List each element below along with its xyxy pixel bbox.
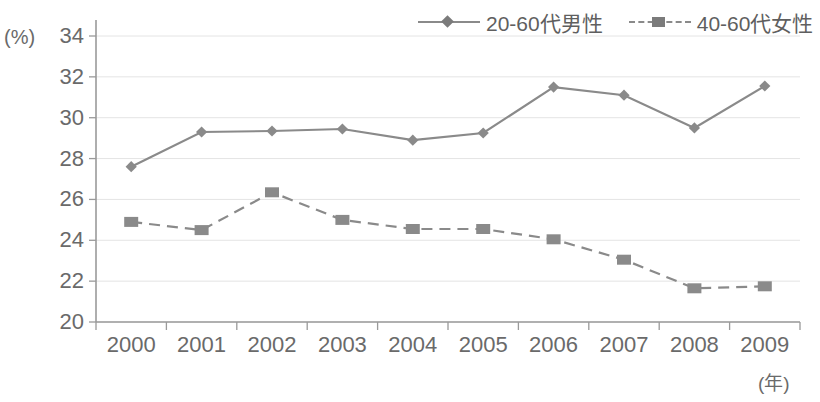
- x-axis-tick-label: 2003: [308, 332, 376, 358]
- data-point-marker: [547, 234, 561, 244]
- y-axis-tick-label: 32: [40, 64, 84, 90]
- x-axis-tick-label: 2007: [590, 332, 658, 358]
- x-axis-tick-label: 2006: [520, 332, 588, 358]
- x-axis-tick-label: 2002: [238, 332, 306, 358]
- data-point-marker: [618, 90, 629, 101]
- x-axis-tick-label: 2008: [660, 332, 728, 358]
- data-point-marker: [617, 255, 631, 265]
- y-axis-tick-label: 26: [40, 186, 84, 212]
- data-point-marker: [407, 135, 418, 146]
- data-point-marker: [266, 125, 277, 136]
- data-point-marker: [196, 126, 207, 137]
- data-point-marker: [335, 215, 349, 225]
- data-point-marker: [265, 187, 279, 197]
- data-point-marker: [687, 283, 701, 293]
- x-axis-tick-label: 2001: [168, 332, 236, 358]
- chart-plot-area: (%) (年) 3432302826242220 200020012002200…: [0, 0, 820, 402]
- chart-page: 20-60代男性 40-60代女性 (%) (年) 34323028262422…: [0, 0, 820, 402]
- data-point-marker: [337, 123, 348, 134]
- x-axis-tick-label: 2004: [379, 332, 447, 358]
- axis-lines: [96, 20, 800, 322]
- x-axis-tick-label: 2005: [449, 332, 517, 358]
- data-point-marker: [758, 281, 772, 291]
- data-point-marker: [548, 82, 559, 93]
- y-axis-tick-label: 30: [40, 105, 84, 131]
- data-point-marker: [478, 127, 489, 138]
- series-layer: [124, 80, 772, 293]
- data-point-marker: [124, 217, 138, 227]
- data-point-marker: [126, 161, 137, 172]
- y-axis-tick-label: 24: [40, 227, 84, 253]
- x-axis-tick-label: 2000: [97, 332, 165, 358]
- data-point-marker: [689, 122, 700, 133]
- data-point-marker: [195, 225, 209, 235]
- data-point-marker: [406, 224, 420, 234]
- y-axis-tick-label: 22: [40, 268, 84, 294]
- y-axis-tick-label: 28: [40, 146, 84, 172]
- x-axis-tick-label: 2009: [731, 332, 799, 358]
- y-axis-tick-label: 20: [40, 309, 84, 335]
- gridlines: [96, 36, 800, 322]
- y-axis-tick-label: 34: [40, 23, 84, 49]
- series-line-1: [131, 86, 765, 167]
- data-point-marker: [759, 80, 770, 91]
- data-point-marker: [476, 224, 490, 234]
